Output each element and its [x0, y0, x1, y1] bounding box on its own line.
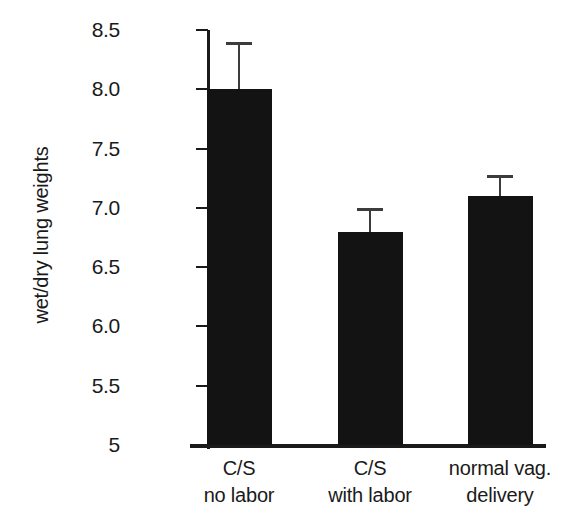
x-axis-category-label: normal vag.delivery [415, 455, 578, 509]
error-bar-cap [357, 208, 383, 211]
error-bar-stem [499, 175, 501, 196]
y-axis-tick-label: 5.5 [60, 375, 120, 396]
error-bar-stem [238, 42, 240, 89]
error-bar-cap [487, 175, 513, 178]
bar-chart: wet/dry lung weights 55.56.06.57.07.58.0… [0, 0, 578, 529]
error-bar-cap [226, 42, 252, 45]
x-label-line-1: normal vag. [415, 455, 578, 482]
bar [338, 232, 403, 445]
y-axis-tick-label: 7.0 [60, 197, 120, 218]
y-axis-tick-label: 8.0 [60, 78, 120, 99]
y-axis-tick-label: 6.5 [60, 256, 120, 277]
y-axis-tick-label: 6.0 [60, 315, 120, 336]
bar [207, 89, 272, 445]
bar [468, 196, 533, 445]
y-axis-tick-label: 8.5 [60, 19, 120, 40]
y-axis-title: wet/dry lung weights [24, 70, 58, 400]
error-bar-stem [369, 208, 371, 232]
y-axis-tick-label: 7.5 [60, 138, 120, 159]
plot-area: 55.56.06.57.07.58.08.5 [128, 26, 548, 450]
y-axis-tick-label: 5 [60, 434, 120, 455]
bars-layer [128, 26, 548, 445]
x-axis-category-labels: C/Sno laborC/Swith labornormal vag.deliv… [128, 455, 548, 525]
x-label-line-2: delivery [415, 482, 578, 509]
